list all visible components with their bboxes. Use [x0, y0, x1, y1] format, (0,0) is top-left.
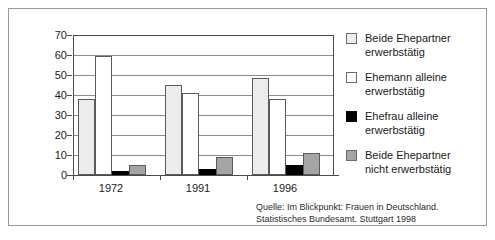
legend-item-3[interactable]: Beide Ehepartnernicht erwerbstätig: [346, 148, 495, 176]
y-tick-mark-10: [67, 155, 72, 156]
y-tick-mark-60: [67, 55, 72, 56]
y-tick-label-60: 60: [13, 50, 67, 61]
legend-item-2[interactable]: Ehefrau alleineerwerbstätig: [346, 109, 495, 137]
legend-label-3: Beide Ehepartnernicht erwerbstätig: [365, 148, 451, 176]
x-axis-baseline: [67, 175, 339, 176]
bar-1972-series-0: [78, 99, 95, 175]
bar-1996-series-1: [269, 99, 286, 175]
x-axis-label-1996: 1996: [273, 182, 297, 194]
bar-1972-series-1: [95, 56, 112, 175]
y-tick-mark-30: [67, 115, 72, 116]
gridline-70: [74, 35, 333, 36]
y-tick-mark-40: [67, 95, 72, 96]
bar-1972-series-3: [129, 165, 146, 175]
y-tick-mark-20: [67, 135, 72, 136]
bar-1996-series-2: [286, 165, 303, 175]
gridline-10: [74, 155, 333, 156]
legend-swatch-icon-0: [346, 33, 357, 44]
y-tick-mark-70: [67, 35, 72, 36]
source-note: Quelle: Im Blickpunkt: Frauen in Deutsch…: [256, 201, 491, 225]
source-line-2: Statistisches Bundesamt. Stuttgart 1998: [256, 213, 491, 225]
y-tick-label-20: 20: [13, 130, 67, 141]
source-line-1: Quelle: Im Blickpunkt: Frauen in Deutsch…: [256, 201, 491, 213]
legend-swatch-icon-2: [346, 111, 357, 122]
y-tick-label-30: 30: [13, 110, 67, 121]
bar-1991-series-1: [182, 93, 199, 175]
legend-swatch-icon-3: [346, 150, 357, 161]
y-tick-mark-50: [67, 75, 72, 76]
bar-1991-series-3: [216, 157, 233, 175]
gridline-40: [74, 95, 333, 96]
legend-label-2: Ehefrau alleineerwerbstätig: [365, 109, 438, 137]
gridline-60: [74, 55, 333, 56]
legend-item-0[interactable]: Beide Ehepartnererwerbstätig: [346, 31, 495, 59]
x-tick-mark-1996: [247, 175, 248, 180]
x-tick-mark-1972: [73, 175, 74, 180]
bar-1991-series-0: [165, 85, 182, 175]
legend-label-0: Beide Ehepartnererwerbstätig: [365, 31, 451, 59]
plot-area: [73, 35, 334, 175]
bar-1996-series-0: [252, 78, 269, 175]
legend-swatch-icon-1: [346, 72, 357, 83]
x-axis-label-1972: 1972: [99, 182, 123, 194]
x-tick-mark-1991: [160, 175, 161, 180]
chart-frame: 010203040506070 Beide Ehepartnererwerbst…: [8, 8, 487, 226]
y-tick-label-0: 0: [13, 170, 67, 181]
y-tick-label-10: 10: [13, 150, 67, 161]
gridline-30: [74, 115, 333, 116]
legend-item-1[interactable]: Ehemann alleineerwerbstätig: [346, 70, 495, 98]
gridline-20: [74, 135, 333, 136]
x-axis-label-1991: 1991: [186, 182, 210, 194]
bar-1991-series-2: [199, 169, 216, 175]
y-axis: 010203040506070: [9, 9, 67, 240]
y-tick-label-50: 50: [13, 70, 67, 81]
bar-1972-series-2: [112, 171, 129, 175]
y-tick-label-40: 40: [13, 90, 67, 101]
gridline-50: [74, 75, 333, 76]
chart-legend: Beide EhepartnererwerbstätigEhemann alle…: [346, 31, 495, 187]
legend-label-1: Ehemann alleineerwerbstätig: [365, 70, 447, 98]
y-tick-label-70: 70: [13, 30, 67, 41]
bar-1996-series-3: [303, 153, 320, 175]
chart-figure: 010203040506070 Beide Ehepartnererwerbst…: [0, 0, 495, 240]
